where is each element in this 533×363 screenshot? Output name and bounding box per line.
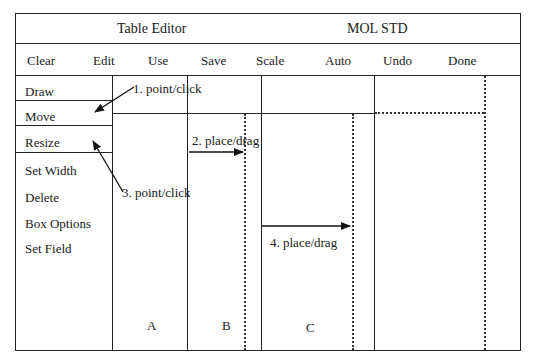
- arrow-step-3-icon: [93, 141, 123, 192]
- arrow-step-1-icon: [95, 87, 134, 112]
- annotation-arrows: [0, 0, 533, 363]
